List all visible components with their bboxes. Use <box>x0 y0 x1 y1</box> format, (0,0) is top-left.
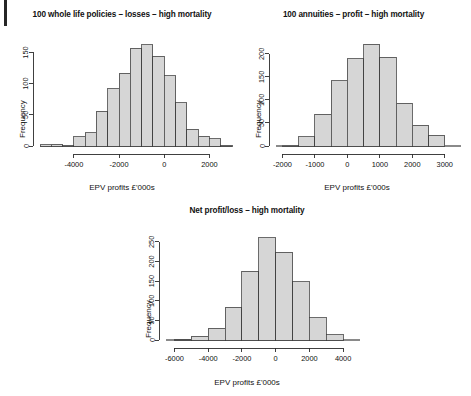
panel-title-annuities: 100 annuities – profit – high mortality <box>238 10 469 19</box>
histogram-annuities: 050100150200-2000-10000100020003000 <box>238 30 469 180</box>
svg-text:50: 50 <box>258 119 267 127</box>
x-axis-label-annuities: EPV profits £'000s <box>252 183 462 192</box>
svg-text:200: 200 <box>148 255 157 267</box>
panel-title-whole-life: 100 whole life policies – losses – high … <box>4 10 240 19</box>
panel-title-net-profit-loss: Net profit/loss – high mortality <box>122 206 372 215</box>
svg-text:2000: 2000 <box>404 160 420 169</box>
svg-text:150: 150 <box>22 46 31 58</box>
svg-text:-2000: -2000 <box>232 354 251 363</box>
svg-text:50: 50 <box>148 316 157 324</box>
svg-text:-1000: -1000 <box>305 160 324 169</box>
svg-text:0: 0 <box>258 144 267 148</box>
panel-net-profit-loss: Net profit/loss – high mortality Frequen… <box>122 206 372 396</box>
svg-text:100: 100 <box>258 94 267 106</box>
panel-annuities: 100 annuities – profit – high mortality … <box>238 10 469 206</box>
svg-text:-4000: -4000 <box>64 160 83 169</box>
x-axis-label-whole-life: EPV profits £'000s <box>14 183 230 192</box>
svg-text:250: 250 <box>148 236 157 248</box>
svg-text:-6000: -6000 <box>165 354 184 363</box>
svg-text:3000: 3000 <box>437 160 453 169</box>
svg-text:0: 0 <box>148 338 157 342</box>
svg-text:-4000: -4000 <box>199 354 218 363</box>
svg-text:2000: 2000 <box>201 160 217 169</box>
svg-text:-2000: -2000 <box>110 160 129 169</box>
svg-text:-2000: -2000 <box>273 160 292 169</box>
histogram-whole-life: 050100150-4000-200002000 <box>4 30 240 180</box>
histogram-net-profit-loss: 050100150200250-6000-4000-2000020004000 <box>122 224 372 376</box>
svg-text:0: 0 <box>274 354 278 363</box>
panel-whole-life: 100 whole life policies – losses – high … <box>4 10 240 206</box>
svg-text:0: 0 <box>345 160 349 169</box>
svg-text:1000: 1000 <box>372 160 388 169</box>
x-axis-label-net: EPV profits £'000s <box>142 378 352 387</box>
svg-text:0: 0 <box>162 160 166 169</box>
svg-text:100: 100 <box>148 295 157 307</box>
figure-page: 100 whole life policies – losses – high … <box>0 0 471 396</box>
svg-text:200: 200 <box>258 48 267 60</box>
svg-text:4000: 4000 <box>335 354 351 363</box>
svg-text:100: 100 <box>22 77 31 89</box>
svg-text:150: 150 <box>258 71 267 83</box>
svg-text:0: 0 <box>22 144 31 148</box>
svg-text:150: 150 <box>148 275 157 287</box>
svg-text:2000: 2000 <box>301 354 317 363</box>
svg-text:50: 50 <box>22 111 31 119</box>
